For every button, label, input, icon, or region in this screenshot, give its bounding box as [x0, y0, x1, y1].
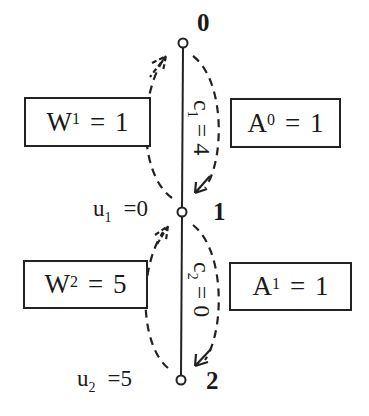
w2-eq: = — [88, 269, 103, 300]
w1-value: 1 — [115, 107, 129, 138]
flow-arc-up-2 — [146, 232, 168, 368]
c1-var: c — [189, 100, 215, 111]
a1-box: A1 = 1 — [229, 262, 352, 311]
c2-sub: 2 — [185, 273, 200, 280]
u1-value: 0 — [136, 196, 148, 221]
w1-var: W — [46, 107, 71, 138]
a0-value: 1 — [310, 108, 324, 139]
edge-0-1-cost-label: c1 = 4 — [184, 100, 215, 155]
a1-var: A — [252, 271, 272, 302]
a0-box: A0 = 1 — [230, 98, 341, 148]
arrowhead-down-1-icon — [195, 176, 210, 193]
u1-label: u1=0 — [93, 196, 148, 226]
w2-box: W2 = 5 — [23, 260, 148, 309]
edge-0-1-line — [182, 48, 183, 207]
u2-eq: = — [108, 366, 121, 391]
arrowhead-up-1-icon — [150, 56, 166, 77]
w2-var: W — [44, 269, 69, 300]
edge-1-2-cost-label: c2 = 0 — [184, 262, 215, 317]
u1-sub: 1 — [105, 210, 112, 225]
c2-value: 0 — [189, 305, 215, 317]
c2-var: c — [189, 262, 215, 273]
u1-eq: = — [124, 196, 137, 221]
a1-eq: = — [290, 271, 305, 302]
u2-value: 5 — [120, 366, 132, 391]
c1-eq: = — [189, 124, 215, 138]
node-2-label: 2 — [206, 367, 219, 395]
w2-value: 5 — [113, 269, 127, 300]
a1-value: 1 — [315, 271, 329, 302]
node-0-circle — [179, 39, 188, 48]
u1-var: u — [93, 196, 105, 221]
u2-var: u — [77, 366, 89, 391]
node-0-label: 0 — [197, 9, 210, 37]
node-1-circle — [178, 208, 187, 217]
c1-sub: 1 — [185, 111, 200, 118]
u2-sub: 2 — [89, 380, 96, 395]
u2-label: u2=5 — [77, 366, 132, 396]
c2-eq: = — [189, 286, 215, 300]
network-diagram — [0, 0, 369, 416]
a0-var: A — [247, 108, 267, 139]
node-1-label: 1 — [213, 198, 226, 226]
w1-eq: = — [90, 107, 105, 138]
arrowhead-down-2-icon — [195, 349, 211, 366]
arrowhead-up-2-icon — [155, 226, 168, 246]
c1-value: 4 — [189, 143, 215, 155]
node-2-circle — [177, 376, 186, 385]
edge-1-2-line — [181, 217, 182, 375]
w1-box: W1 = 1 — [24, 97, 151, 147]
a0-eq: = — [285, 108, 300, 139]
